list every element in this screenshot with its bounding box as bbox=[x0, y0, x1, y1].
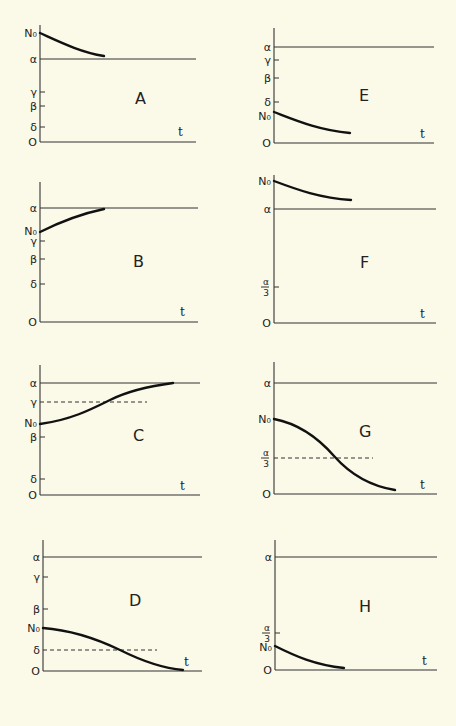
tick-label-alpha: α bbox=[264, 41, 271, 54]
tick-label-zero: O bbox=[262, 137, 271, 150]
panel-label: C bbox=[133, 426, 144, 445]
tick-label-alpha: α bbox=[30, 377, 37, 390]
tick-label-zero: O bbox=[28, 316, 37, 329]
panel-b: αN₀γβδOtB bbox=[24, 182, 198, 329]
tick-label-zero: O bbox=[262, 488, 271, 501]
panel-h: αα3N₀OtH bbox=[259, 540, 437, 677]
x-axis-label-t: t bbox=[420, 307, 425, 321]
panel-a: N₀αγβδOtA bbox=[24, 25, 196, 149]
tick-label-alpha-over-3-numerator: α bbox=[263, 277, 269, 287]
population-curve bbox=[40, 209, 104, 232]
tick-label-delta: δ bbox=[30, 278, 37, 291]
tick-label-gamma: γ bbox=[33, 571, 40, 584]
tick-label-N0: N₀ bbox=[258, 175, 271, 188]
tick-label-alpha: α bbox=[30, 202, 37, 215]
tick-label-N0: N₀ bbox=[27, 622, 40, 635]
tick-label-delta: δ bbox=[30, 121, 37, 134]
tick-label-zero: O bbox=[31, 665, 40, 678]
tick-label-gamma: γ bbox=[30, 235, 37, 248]
tick-label-alpha-over-3-numerator: α bbox=[263, 448, 269, 458]
population-curve bbox=[40, 33, 104, 56]
tick-label-beta: β bbox=[30, 431, 37, 444]
panel-d: αγβN₀δOtD bbox=[27, 540, 202, 678]
tick-label-delta: δ bbox=[33, 644, 40, 657]
tick-label-alpha-over-3-denominator: 3 bbox=[263, 459, 269, 469]
population-curve bbox=[274, 112, 350, 133]
panel-label: E bbox=[359, 86, 369, 105]
tick-label-zero: O bbox=[262, 317, 271, 330]
x-axis-label-t: t bbox=[420, 478, 425, 492]
tick-label-zero: O bbox=[28, 136, 37, 149]
tick-label-delta: δ bbox=[264, 96, 271, 109]
panel-label: B bbox=[133, 252, 144, 271]
tick-label-alpha: α bbox=[264, 203, 271, 216]
x-axis-label-t: t bbox=[420, 127, 425, 141]
tick-label-beta: β bbox=[264, 72, 271, 85]
panel-label: D bbox=[129, 591, 141, 610]
tick-label-beta: β bbox=[30, 253, 37, 266]
tick-label-gamma: γ bbox=[264, 54, 271, 67]
panel-c: αγN₀βδOtC bbox=[24, 365, 200, 502]
tick-label-alpha-over-3-denominator: 3 bbox=[263, 288, 269, 298]
x-axis-label-t: t bbox=[178, 125, 183, 139]
panel-label: F bbox=[360, 253, 369, 272]
tick-label-N0: N₀ bbox=[258, 110, 271, 123]
panel-f: N₀αα3OtF bbox=[258, 175, 436, 330]
x-axis-label-t: t bbox=[422, 654, 427, 668]
tick-label-beta: β bbox=[30, 100, 37, 113]
tick-label-alpha: α bbox=[264, 377, 271, 390]
panel-label: G bbox=[359, 422, 371, 441]
x-axis-label-t: t bbox=[184, 655, 189, 669]
tick-label-alpha-over-3-numerator: α bbox=[264, 623, 270, 633]
panel-label: H bbox=[359, 597, 371, 616]
tick-label-gamma: γ bbox=[30, 396, 37, 409]
tick-label-alpha: α bbox=[265, 551, 272, 564]
x-axis-label-t: t bbox=[180, 479, 185, 493]
tick-label-alpha: α bbox=[33, 551, 40, 564]
tick-label-alpha: α bbox=[30, 53, 37, 66]
tick-label-N0: N₀ bbox=[259, 641, 272, 654]
panel-e: αγβδN₀OtE bbox=[258, 28, 434, 150]
panel-label: A bbox=[135, 89, 146, 108]
x-axis-label-t: t bbox=[180, 305, 185, 319]
tick-label-delta: δ bbox=[30, 473, 37, 486]
population-curve bbox=[275, 646, 344, 668]
population-curve bbox=[40, 383, 173, 424]
tick-label-gamma: γ bbox=[30, 86, 37, 99]
figure-canvas: N₀αγβδOtAαγβδN₀OtEαN₀γβδOtBN₀αα3OtFαγN₀β… bbox=[0, 0, 456, 726]
population-curve bbox=[43, 628, 183, 670]
tick-label-zero: O bbox=[263, 664, 272, 677]
population-curve bbox=[274, 181, 351, 200]
tick-label-zero: O bbox=[28, 489, 37, 502]
tick-label-N0: N₀ bbox=[24, 27, 37, 40]
tick-label-N0: N₀ bbox=[24, 417, 37, 430]
tick-label-beta: β bbox=[33, 603, 40, 616]
tick-label-N0: N₀ bbox=[258, 413, 271, 426]
population-curve bbox=[274, 419, 395, 490]
panel-g: αN₀α3OtG bbox=[258, 362, 437, 501]
